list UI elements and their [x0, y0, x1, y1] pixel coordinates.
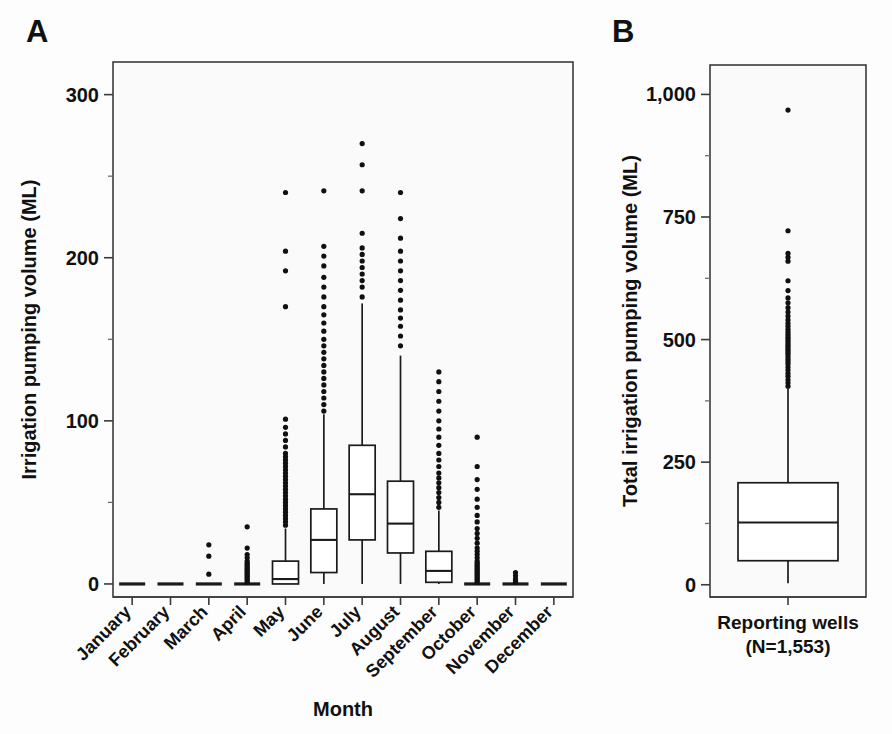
outlier-point — [321, 263, 326, 268]
outlier-point — [398, 324, 403, 329]
outlier-point — [436, 464, 441, 469]
outlier-point — [398, 315, 403, 320]
y-axis-title: Irrigation pumping volume (ML) — [18, 180, 40, 480]
outlier-point — [436, 480, 441, 485]
outlier-point — [785, 228, 790, 233]
figure-container: A B 0100200300JanuaryFebruaryMarchAprilM… — [0, 0, 892, 734]
outlier-point — [360, 294, 365, 299]
outlier-point — [321, 294, 326, 299]
outlier-point — [436, 435, 441, 440]
x-category-label: March — [160, 602, 212, 654]
box-rect — [388, 481, 414, 553]
outlier-point — [321, 402, 326, 407]
outlier-point — [321, 304, 326, 309]
x-category-label: Reporting wells — [717, 612, 858, 633]
outlier-point — [321, 244, 326, 249]
outlier-point — [321, 320, 326, 325]
outlier-point — [436, 399, 441, 404]
outlier-point — [436, 369, 441, 374]
outlier-point — [475, 477, 480, 482]
y-tick-label: 500 — [663, 329, 696, 351]
outlier-point — [321, 337, 326, 342]
outlier-point — [245, 524, 250, 529]
outlier-point — [321, 284, 326, 289]
outlier-point — [360, 265, 365, 270]
outlier-point — [475, 519, 480, 524]
outlier-point — [321, 376, 326, 381]
outlier-point — [245, 552, 250, 557]
y-tick-label: 0 — [685, 574, 696, 596]
outlier-point — [283, 190, 288, 195]
outlier-point — [398, 258, 403, 263]
outlier-point — [321, 350, 326, 355]
outlier-point — [360, 252, 365, 257]
outlier-point — [321, 312, 326, 317]
y-tick-label: 1,000 — [646, 83, 696, 105]
y-tick-label: 200 — [66, 247, 99, 269]
outlier-point — [475, 464, 480, 469]
outlier-point — [513, 570, 518, 575]
outlier-point — [398, 249, 403, 254]
outlier-point — [398, 307, 403, 312]
outlier-point — [436, 457, 441, 462]
outlier-point — [245, 545, 250, 550]
outlier-point — [785, 288, 790, 293]
outlier-point — [321, 369, 326, 374]
outlier-point — [360, 284, 365, 289]
outlier-point — [436, 490, 441, 495]
outlier-point — [436, 451, 441, 456]
outlier-point — [436, 389, 441, 394]
outlier-point — [360, 231, 365, 236]
x-axis-title: Month — [313, 698, 373, 720]
outlier-point — [436, 485, 441, 490]
outlier-point — [398, 278, 403, 283]
outlier-point — [436, 505, 441, 510]
outlier-point — [436, 418, 441, 423]
outlier-point — [398, 333, 403, 338]
plot-frame — [113, 62, 573, 597]
outlier-point — [321, 356, 326, 361]
outlier-point — [398, 190, 403, 195]
outlier-point — [398, 343, 403, 348]
outlier-point — [321, 395, 326, 400]
outlier-point — [475, 536, 480, 541]
outlier-point — [475, 505, 480, 510]
box-rect — [273, 561, 299, 584]
outlier-point — [398, 268, 403, 273]
box-rect — [426, 551, 452, 582]
outlier-point — [283, 304, 288, 309]
panel-a-plot: 0100200300JanuaryFebruaryMarchAprilMayJu… — [18, 62, 573, 720]
outlier-point — [436, 443, 441, 448]
outlier-point — [283, 431, 288, 436]
outlier-point — [360, 245, 365, 250]
outlier-point — [436, 426, 441, 431]
outlier-point — [283, 417, 288, 422]
outlier-point — [283, 444, 288, 449]
outlier-point — [475, 545, 480, 550]
outlier-point — [475, 531, 480, 536]
outlier-point — [475, 526, 480, 531]
outlier-point — [206, 542, 211, 547]
outlier-point — [321, 188, 326, 193]
outlier-point — [283, 438, 288, 443]
y-tick-label: 100 — [66, 410, 99, 432]
outlier-point — [785, 108, 790, 113]
x-category-label: May — [249, 602, 288, 641]
outlier-point — [283, 249, 288, 254]
outlier-point — [321, 275, 326, 280]
box-rect — [349, 445, 375, 540]
x-category-label: April — [207, 602, 250, 645]
outlier-point — [321, 389, 326, 394]
panel-b-plot: 02505007501,000Reporting wells(N=1,553)T… — [619, 65, 866, 657]
y-tick-label: 0 — [88, 573, 99, 595]
y-tick-label: 300 — [66, 84, 99, 106]
outlier-point — [321, 408, 326, 413]
outlier-point — [360, 141, 365, 146]
outlier-point — [475, 541, 480, 546]
outlier-point — [321, 343, 326, 348]
outlier-point — [475, 497, 480, 502]
x-category-label: June — [283, 602, 327, 646]
outlier-point — [321, 382, 326, 387]
outlier-point — [436, 470, 441, 475]
outlier-point — [785, 305, 790, 310]
